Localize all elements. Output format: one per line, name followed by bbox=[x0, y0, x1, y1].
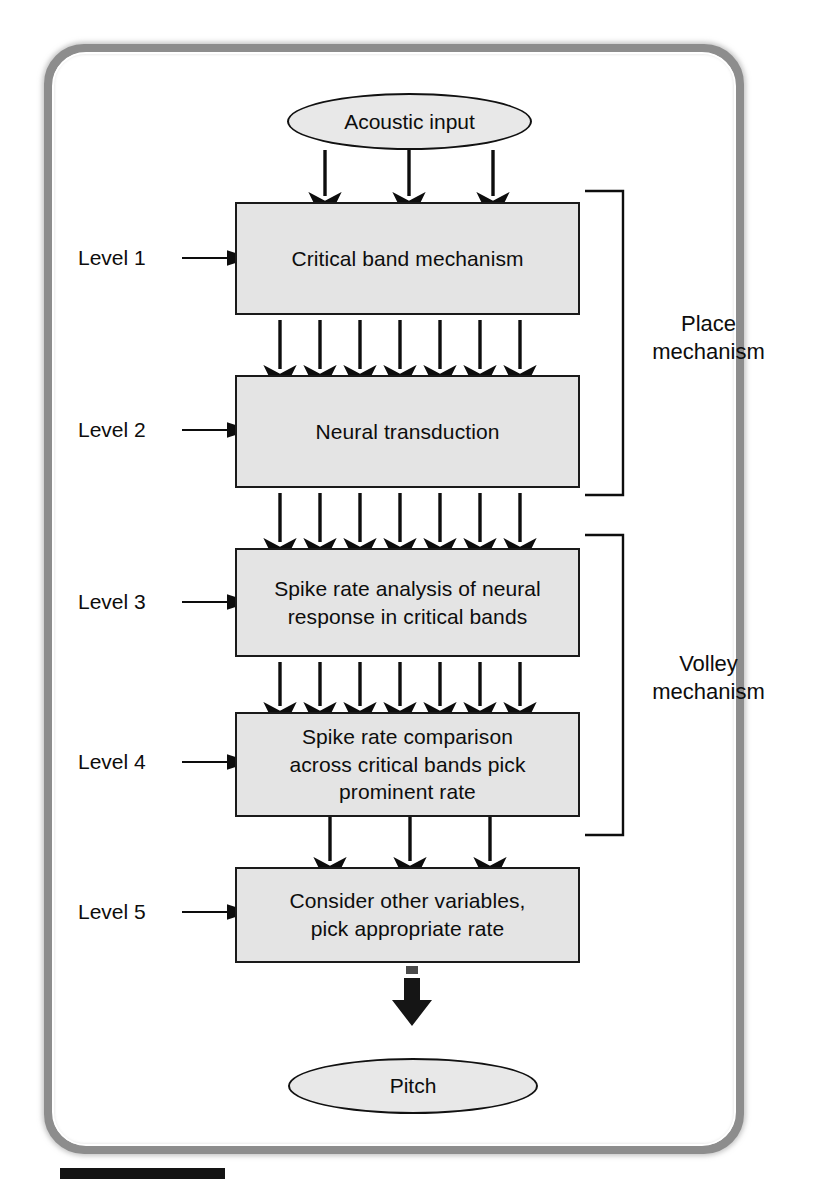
bracket-label-place-mechanism: Place mechanism bbox=[636, 310, 781, 366]
node-level-3[interactable]: Spike rate analysis of neural response i… bbox=[235, 548, 580, 657]
node-acoustic-input[interactable]: Acoustic input bbox=[287, 93, 532, 150]
bracket-label-volley-mechanism: Volley mechanism bbox=[636, 650, 781, 706]
node-pitch-output-label: Pitch bbox=[390, 1074, 437, 1098]
diagram-canvas: Acoustic input Critical band mechanism N… bbox=[0, 0, 834, 1201]
node-pitch-output[interactable]: Pitch bbox=[288, 1058, 538, 1114]
node-level-1-label: Critical band mechanism bbox=[283, 245, 531, 273]
node-level-2[interactable]: Neural transduction bbox=[235, 375, 580, 488]
node-acoustic-input-label: Acoustic input bbox=[344, 110, 475, 134]
node-level-4-label: Spike rate comparison across critical ba… bbox=[281, 723, 533, 806]
level-label-3: Level 3 bbox=[78, 590, 146, 614]
node-level-5[interactable]: Consider other variables, pick appropria… bbox=[235, 867, 580, 963]
node-level-5-label: Consider other variables, pick appropria… bbox=[282, 887, 534, 942]
level-label-5: Level 5 bbox=[78, 900, 146, 924]
level-label-4: Level 4 bbox=[78, 750, 146, 774]
bottom-rule bbox=[60, 1168, 225, 1179]
level-label-2: Level 2 bbox=[78, 418, 146, 442]
level-label-1: Level 1 bbox=[78, 246, 146, 270]
node-level-1[interactable]: Critical band mechanism bbox=[235, 202, 580, 315]
node-level-4[interactable]: Spike rate comparison across critical ba… bbox=[235, 712, 580, 817]
node-level-2-label: Neural transduction bbox=[308, 418, 508, 446]
node-level-3-label: Spike rate analysis of neural response i… bbox=[266, 575, 549, 630]
